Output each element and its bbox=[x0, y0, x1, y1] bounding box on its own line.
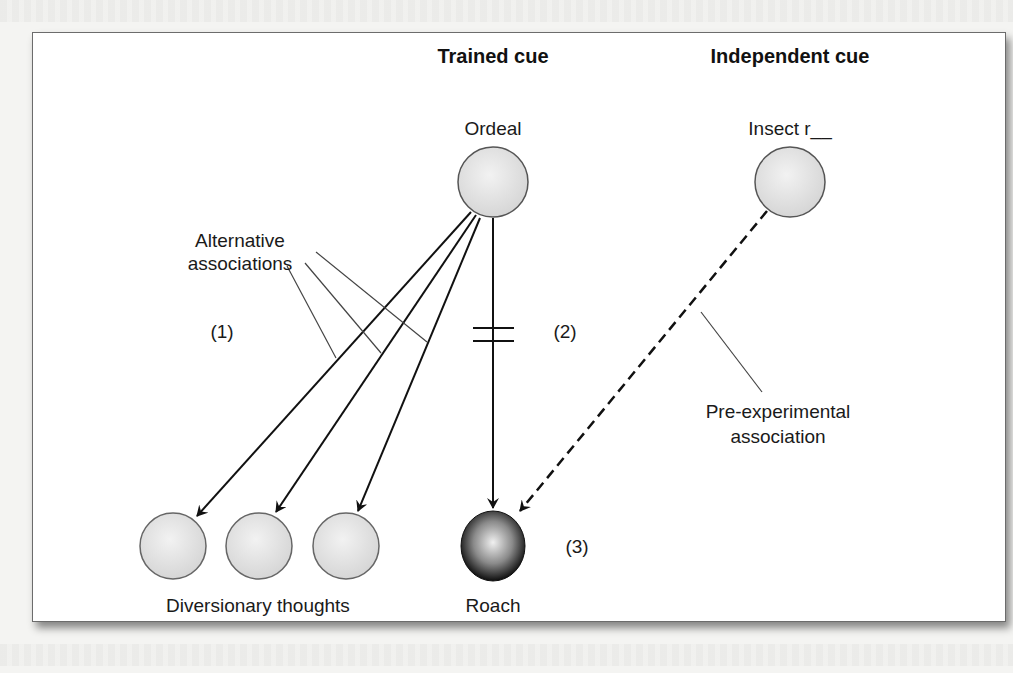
marker-1: (1) bbox=[210, 321, 233, 342]
arrow-insect-to-roach-dashed bbox=[520, 211, 767, 511]
callout-pre-exp bbox=[701, 312, 762, 392]
marker-3: (3) bbox=[565, 536, 588, 557]
callout-alt-3 bbox=[316, 252, 427, 342]
label-pre-exp-line2: association bbox=[730, 426, 825, 447]
node-diversionary-1 bbox=[140, 513, 206, 579]
label-ordeal: Ordeal bbox=[464, 118, 521, 139]
marker-2: (2) bbox=[553, 321, 576, 342]
label-pre-exp-line1: Pre-experimental bbox=[706, 401, 851, 422]
node-insect bbox=[755, 147, 825, 217]
header-trained-cue: Trained cue bbox=[437, 45, 548, 67]
label-diversionary-thoughts: Diversionary thoughts bbox=[166, 595, 350, 616]
header-independent-cue: Independent cue bbox=[711, 45, 870, 67]
diagram-canvas: Trained cue Independent cue Ordeal Insec… bbox=[0, 0, 1013, 673]
node-ordeal bbox=[458, 147, 528, 217]
callout-alt-1 bbox=[287, 266, 336, 358]
label-roach: Roach bbox=[466, 595, 521, 616]
node-diversionary-3 bbox=[313, 513, 379, 579]
label-insect: Insect r__ bbox=[748, 118, 832, 140]
node-roach bbox=[461, 511, 525, 581]
label-alt-assoc-line2: associations bbox=[188, 253, 293, 274]
label-alt-assoc-line1: Alternative bbox=[195, 230, 285, 251]
callout-alt-2 bbox=[305, 263, 381, 353]
node-diversionary-2 bbox=[226, 513, 292, 579]
